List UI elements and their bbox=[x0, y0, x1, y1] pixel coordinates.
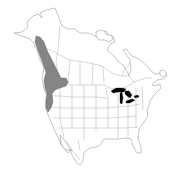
north-america-landmass bbox=[14, 8, 167, 165]
range-map bbox=[0, 0, 182, 171]
